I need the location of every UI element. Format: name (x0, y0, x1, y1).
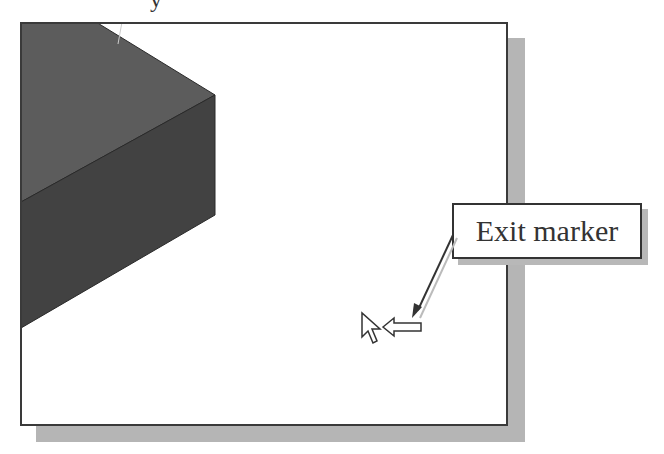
mouse-pointer-icon (362, 313, 380, 343)
leader-line-shadow (420, 238, 457, 318)
exit-marker-arrow-icon (383, 318, 421, 336)
leader-line (418, 235, 453, 310)
annotation-overlay (0, 0, 664, 454)
